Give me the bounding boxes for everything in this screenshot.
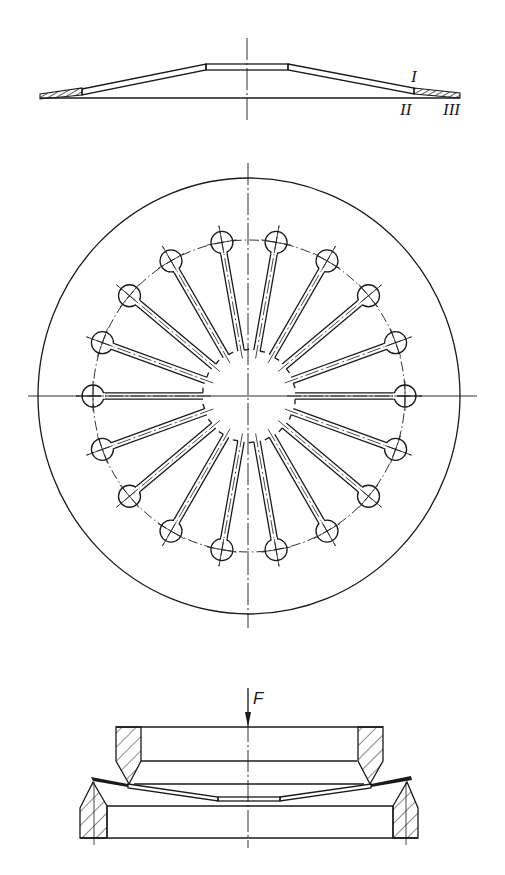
zone-label-I: I [410, 67, 418, 86]
disc-left-slope [128, 784, 218, 801]
slot [249, 433, 291, 566]
technical-drawing: I II III F [0, 0, 505, 875]
slot [285, 329, 412, 389]
slot [207, 226, 249, 359]
disc-right-slope [280, 784, 371, 801]
lower-ring-right-section [393, 782, 418, 838]
slot [278, 420, 381, 507]
upper-ring-left-section [116, 727, 141, 784]
plan-view [28, 163, 477, 628]
zone-label-III: III [442, 100, 461, 119]
disc-center-flat [218, 797, 280, 801]
slot [86, 329, 213, 384]
force-arrow-head-icon [245, 712, 251, 727]
upper-ring-right-section [358, 727, 383, 784]
slot [116, 284, 219, 371]
test-fixture-view: F [80, 688, 418, 848]
slot [116, 419, 219, 508]
slot [86, 404, 213, 464]
side-view-left-slope [82, 64, 206, 95]
force-label: F [253, 689, 265, 708]
disc-left-rim [91, 777, 128, 787]
side-view-right-rim-hatch [414, 88, 460, 98]
lower-ring-left-section [80, 782, 107, 838]
slot [285, 409, 412, 464]
zone-label-II: II [399, 100, 413, 119]
slot [278, 284, 381, 373]
side-view: I II III [40, 38, 461, 122]
side-view-right-slope [288, 64, 414, 94]
